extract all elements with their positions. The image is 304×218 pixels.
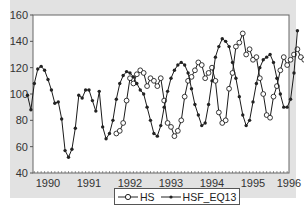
data-point-hsf-eq13: [98, 90, 101, 93]
data-point-hs: [216, 110, 221, 115]
data-point-hsf-eq13: [224, 40, 227, 43]
data-point-hsf-eq13: [60, 117, 63, 120]
data-point-hsf-eq13: [272, 61, 275, 64]
data-point-hsf-eq13: [139, 88, 142, 91]
data-point-hsf-eq13: [156, 134, 159, 137]
data-point-hsf-eq13: [173, 69, 176, 72]
data-point-hsf-eq13: [214, 55, 217, 58]
data-point-hsf-eq13: [57, 100, 60, 103]
line-chart: 4060801001201401601990199119921993199419…: [0, 0, 304, 218]
data-point-hsf-eq13: [258, 66, 261, 69]
data-point-hs: [268, 115, 273, 120]
data-point-hsf-eq13: [142, 92, 145, 95]
y-tick-label: 40: [16, 167, 28, 179]
data-point-hsf-eq13: [145, 105, 148, 108]
data-point-hs: [285, 63, 290, 68]
legend-item-hsf-eq13: HSF_EQ13: [161, 191, 237, 203]
data-point-hsf-eq13: [183, 63, 186, 66]
data-point-hsf-eq13: [132, 75, 135, 78]
data-point-hsf-eq13: [289, 98, 292, 101]
data-point-hsf-eq13: [207, 103, 210, 106]
data-point-hsf-eq13: [190, 87, 193, 90]
data-point-hsf-eq13: [296, 29, 299, 32]
data-point-hsf-eq13: [255, 82, 258, 85]
data-point-hsf-eq13: [67, 156, 70, 159]
data-point-hsf-eq13: [186, 71, 189, 74]
legend-label-hsf-eq13: HSF_EQ13: [183, 191, 237, 203]
data-point-hsf-eq13: [282, 105, 285, 108]
data-point-hsf-eq13: [227, 45, 230, 48]
legend-item-hs: HS: [118, 191, 155, 203]
data-point-hs: [240, 31, 245, 36]
data-point-hsf-eq13: [251, 100, 254, 103]
data-point-hsf-eq13: [53, 102, 56, 105]
data-point-hsf-eq13: [80, 96, 83, 99]
data-point-hsf-eq13: [108, 132, 111, 135]
data-point-hsf-eq13: [63, 149, 66, 152]
data-point-hsf-eq13: [125, 70, 128, 73]
data-point-hsf-eq13: [285, 105, 288, 108]
data-point-hsf-eq13: [180, 61, 183, 64]
data-point-hs: [124, 98, 129, 103]
data-point-hsf-eq13: [36, 67, 39, 70]
data-point-hs: [247, 47, 252, 52]
y-tick-label: 60: [16, 141, 28, 153]
data-point-hs: [165, 121, 170, 126]
data-point-hs: [141, 71, 146, 76]
data-point-hsf-eq13: [29, 108, 32, 111]
data-point-hs: [288, 57, 293, 62]
data-point-hs: [206, 71, 211, 76]
data-point-hsf-eq13: [166, 90, 169, 93]
data-point-hsf-eq13: [275, 77, 278, 80]
data-point-hs: [261, 92, 266, 97]
data-point-hsf-eq13: [265, 55, 268, 58]
data-point-hs: [121, 121, 126, 126]
data-point-hsf-eq13: [70, 148, 73, 151]
data-point-hs: [172, 134, 177, 139]
data-point-hsf-eq13: [33, 82, 36, 85]
data-point-hs: [213, 78, 218, 83]
data-point-hs: [203, 76, 208, 81]
data-point-hsf-eq13: [238, 95, 241, 98]
data-point-hsf-eq13: [152, 132, 155, 135]
data-point-hsf-eq13: [210, 79, 213, 82]
data-point-hsf-eq13: [135, 82, 138, 85]
data-point-hsf-eq13: [234, 77, 237, 80]
data-point-hsf-eq13: [128, 71, 131, 74]
data-point-hs: [244, 52, 249, 57]
data-point-hs: [158, 76, 163, 81]
y-tick-label: 120: [10, 62, 28, 74]
data-point-hs: [278, 68, 283, 73]
data-point-hs: [237, 40, 242, 45]
y-tick-label: 160: [10, 9, 28, 21]
data-point-hsf-eq13: [244, 124, 247, 127]
data-point-hsf-eq13: [176, 63, 179, 66]
data-point-hsf-eq13: [115, 98, 118, 101]
data-point-hsf-eq13: [26, 94, 29, 97]
data-point-hsf-eq13: [104, 137, 107, 140]
x-tick-label: 1990: [36, 177, 60, 189]
data-point-hsf-eq13: [200, 124, 203, 127]
data-point-hsf-eq13: [101, 125, 104, 128]
data-point-hs: [152, 78, 157, 83]
data-point-hsf-eq13: [159, 124, 162, 127]
open-circle-marker-icon: [118, 192, 138, 202]
data-point-hsf-eq13: [268, 53, 271, 56]
data-point-hs: [223, 118, 228, 123]
data-point-hs: [155, 84, 160, 89]
data-point-hsf-eq13: [43, 69, 46, 72]
x-tick-label: 1996: [277, 177, 301, 189]
data-point-hs: [169, 125, 174, 130]
y-tick-label: 140: [10, 35, 28, 47]
data-point-hsf-eq13: [149, 119, 152, 122]
data-point-hs: [175, 128, 180, 133]
data-point-hsf-eq13: [262, 58, 265, 61]
data-point-hs: [131, 81, 136, 86]
data-point-hsf-eq13: [91, 99, 94, 102]
data-point-hsf-eq13: [77, 94, 80, 97]
y-tick-label: 100: [10, 88, 28, 100]
data-point-hsf-eq13: [74, 127, 77, 130]
data-point-hs: [234, 44, 239, 49]
data-point-hsf-eq13: [231, 61, 234, 64]
data-point-hsf-eq13: [162, 105, 165, 108]
